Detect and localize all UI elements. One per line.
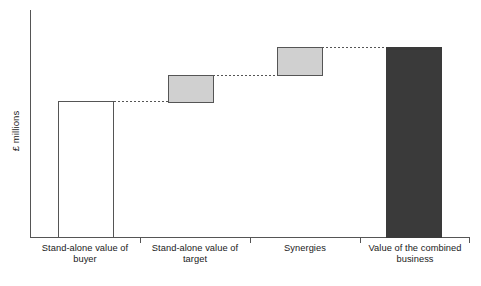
x-axis-label-line: business — [396, 254, 433, 264]
bar-synergies — [278, 48, 323, 76]
y-axis-title: £ millions — [0, 120, 50, 142]
x-axis-label-combined: Value of the combined business — [360, 243, 470, 283]
x-axis-label-line: target — [183, 254, 207, 264]
x-axis-label-line: Value of the combined — [369, 243, 462, 253]
bar-stand-alone-value-of-target — [169, 76, 214, 103]
waterfall-chart: £ millions Stand-alone value of buyer St… — [0, 0, 481, 286]
x-axis-labels: Stand-alone value of buyer Stand-alone v… — [30, 243, 470, 283]
bar-value-of-the-combined-business — [387, 48, 442, 238]
x-axis-label-line: buyer — [73, 254, 97, 264]
x-axis-label-line: Synergies — [284, 243, 326, 253]
x-axis-label-line: Stand-alone value of — [42, 243, 128, 253]
x-axis-label-buyer: Stand-alone value of buyer — [30, 243, 140, 283]
bar-stand-alone-value-of-buyer — [59, 102, 114, 238]
x-axis-label-synergies: Synergies — [250, 243, 360, 283]
x-axis-label-line: Stand-alone value of — [152, 243, 238, 253]
x-axis-label-target: Stand-alone value of target — [140, 243, 250, 283]
